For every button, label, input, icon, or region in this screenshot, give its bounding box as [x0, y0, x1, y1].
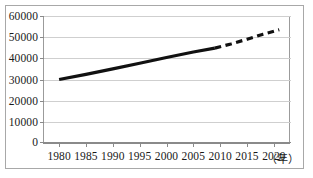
y-axis-label-10000: 10000 [0, 116, 38, 128]
y-axis-label-40000: 40000 [0, 52, 38, 64]
x-tick-2005 [193, 143, 194, 147]
x-axis-unit-label: （年） [266, 150, 299, 166]
series-line-projected [215, 30, 279, 48]
series-line-actual [59, 48, 215, 79]
series-layer [43, 16, 290, 143]
y-axis-label-0: 0 [0, 136, 38, 148]
y-axis-label-60000: 60000 [0, 10, 38, 22]
y-axis-label-20000: 20000 [0, 95, 38, 107]
x-tick-1980 [59, 143, 60, 147]
chart-figure: 60000 50000 40000 30000 20000 10000 0 19… [0, 0, 313, 178]
x-tick-2000 [167, 143, 168, 147]
y-axis-label-50000: 50000 [0, 31, 38, 43]
x-tick-1990 [113, 143, 114, 147]
x-tick-1995 [140, 143, 141, 147]
x-tick-1985 [86, 143, 87, 147]
x-tick-2015 [247, 143, 248, 147]
x-tick-2010 [220, 143, 221, 147]
x-tick-2020 [274, 143, 275, 147]
y-axis-label-30000: 30000 [0, 74, 38, 86]
